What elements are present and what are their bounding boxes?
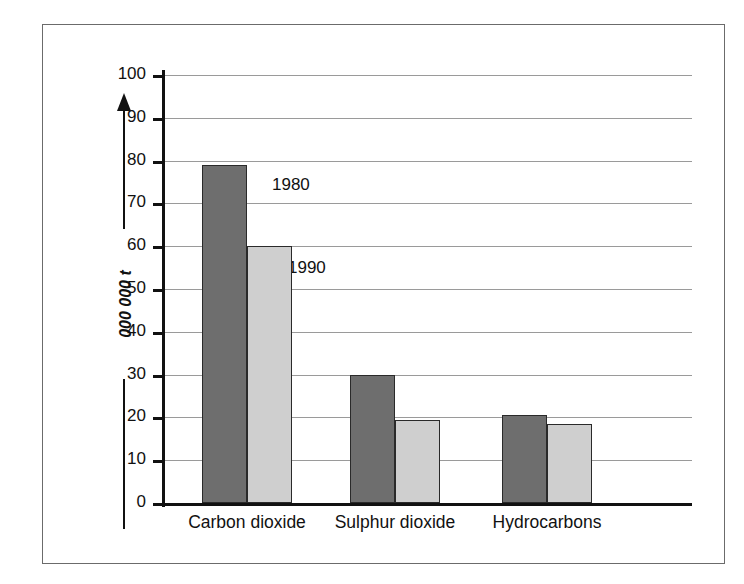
- gridline: [162, 161, 692, 162]
- bar-1990-hydrocarbons: [547, 424, 592, 503]
- bar-1980-sulphur-dioxide: [350, 375, 395, 503]
- gridline: [162, 75, 692, 76]
- bar-1980-hydrocarbons: [502, 415, 547, 503]
- y-axis-line: [162, 70, 165, 507]
- bar-1990-sulphur-dioxide: [395, 420, 440, 503]
- y-axis-tick: [153, 203, 162, 206]
- y-axis-tick-label: 10: [102, 449, 146, 469]
- category-label-hydrocarbons: Hydrocarbons: [457, 512, 637, 533]
- y-axis-tick-label: 70: [102, 192, 146, 212]
- series-annotation-1980: 1980: [272, 175, 310, 195]
- y-axis-tick-label: 50: [102, 278, 146, 298]
- y-axis-tick-label: 20: [102, 406, 146, 426]
- y-axis-tick-label: 40: [102, 321, 146, 341]
- y-axis-tick-label: 100: [102, 64, 146, 84]
- y-axis-tick-label: 60: [102, 235, 146, 255]
- bar-1990-carbon-dioxide: [247, 246, 292, 503]
- y-axis-tick: [153, 460, 162, 463]
- bar-1980-carbon-dioxide: [202, 165, 247, 503]
- y-axis-tick-label: 90: [102, 107, 146, 127]
- y-axis-tick-labels: 0102030405060708090100: [98, 0, 146, 584]
- y-axis-tick: [153, 246, 162, 249]
- y-axis-tick: [153, 75, 162, 78]
- gridline: [162, 118, 692, 119]
- y-axis-tick-label: 30: [102, 364, 146, 384]
- y-axis-tick: [153, 118, 162, 121]
- y-axis-tick: [153, 417, 162, 420]
- y-axis-tick-label: 80: [102, 150, 146, 170]
- figure-root: SOURCE: Environmental Protection Agency …: [0, 0, 744, 584]
- series-annotation-1990: 1990: [288, 258, 326, 278]
- y-axis-tick: [153, 375, 162, 378]
- y-axis-tick: [153, 289, 162, 292]
- y-axis-tick: [153, 161, 162, 164]
- y-axis-tick-label: 0: [102, 492, 146, 512]
- x-axis-line: [155, 503, 692, 506]
- y-axis-tick: [153, 503, 162, 506]
- y-axis-tick: [153, 332, 162, 335]
